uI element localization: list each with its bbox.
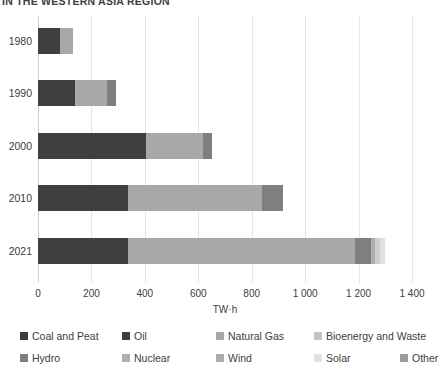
bar-row[interactable] [38, 133, 212, 159]
legend-item[interactable]: Bioenergy and Waste [314, 327, 426, 345]
bar-segment[interactable] [128, 238, 355, 264]
chart-title: IN THE WESTERN ASIA REGION [2, 0, 170, 7]
bar-segment[interactable] [38, 185, 128, 211]
legend-label: Nuclear [134, 352, 170, 364]
bar-row[interactable] [38, 80, 116, 106]
bar-segment[interactable] [262, 185, 283, 211]
legend-swatch-icon [20, 332, 28, 340]
legend-label: Other [412, 352, 438, 364]
bar-row[interactable] [38, 28, 73, 54]
y-axis-label: 2000 [0, 140, 32, 152]
bar-segment[interactable] [38, 133, 146, 159]
bar-segment[interactable] [75, 80, 107, 106]
legend-label: Coal and Peat [32, 330, 99, 342]
x-axis-tick-label: 1 000 [293, 288, 318, 299]
bar-segment[interactable] [380, 238, 385, 264]
y-axis-label: 1980 [0, 35, 32, 47]
legend-swatch-icon [216, 354, 224, 362]
x-axis-tick-label: 1 400 [399, 288, 424, 299]
legend-swatch-icon [122, 332, 130, 340]
gridline [412, 16, 413, 283]
bar-segment[interactable] [60, 28, 73, 54]
y-axis-label: 2021 [0, 245, 32, 257]
chart-legend: Coal and PeatOilNatural GasBioenergy and… [0, 327, 441, 371]
y-axis-label: 2010 [0, 192, 32, 204]
bar-row[interactable] [38, 185, 283, 211]
legend-swatch-icon [314, 354, 322, 362]
legend-item[interactable]: Oil [122, 327, 147, 345]
legend-item[interactable]: Other [400, 349, 438, 367]
legend-swatch-icon [216, 332, 224, 340]
x-axis-tick-label: 800 [243, 288, 260, 299]
legend-item[interactable]: Hydro [20, 349, 60, 367]
plot-area [38, 16, 412, 283]
legend-item[interactable]: Wind [216, 349, 252, 367]
bar-segment[interactable] [128, 185, 262, 211]
bar-row[interactable] [38, 238, 385, 264]
legend-row-2: HydroNuclearWindSolarOther [0, 349, 441, 369]
bar-segment[interactable] [107, 80, 116, 106]
bar-segment[interactable] [203, 133, 212, 159]
y-axis-label: 1990 [0, 87, 32, 99]
legend-swatch-icon [122, 354, 130, 362]
legend-item[interactable]: Natural Gas [216, 327, 284, 345]
x-axis-tick-label: 1 200 [346, 288, 371, 299]
legend-label: Oil [134, 330, 147, 342]
legend-label: Hydro [32, 352, 60, 364]
legend-item[interactable]: Nuclear [122, 349, 170, 367]
legend-label: Natural Gas [228, 330, 284, 342]
legend-item[interactable]: Coal and Peat [20, 327, 99, 345]
x-axis-tick-label: 200 [83, 288, 100, 299]
x-axis-tick-label: 600 [190, 288, 207, 299]
legend-swatch-icon [400, 354, 408, 362]
chart-root: IN THE WESTERN ASIA REGION 1980199020002… [0, 0, 441, 371]
legend-item[interactable]: Solar [314, 349, 351, 367]
legend-row-1: Coal and PeatOilNatural GasBioenergy and… [0, 327, 441, 347]
x-axis-tick-label: 0 [35, 288, 41, 299]
bar-segment[interactable] [38, 28, 60, 54]
bar-segment[interactable] [38, 80, 75, 106]
x-axis-title: TW·h [38, 304, 412, 315]
legend-label: Solar [326, 352, 351, 364]
legend-swatch-icon [20, 354, 28, 362]
bar-segment[interactable] [146, 133, 203, 159]
legend-swatch-icon [314, 332, 322, 340]
legend-label: Wind [228, 352, 252, 364]
legend-label: Bioenergy and Waste [326, 330, 426, 342]
x-axis-tick-label: 400 [137, 288, 154, 299]
bar-segment[interactable] [355, 238, 371, 264]
bar-segment[interactable] [38, 238, 128, 264]
